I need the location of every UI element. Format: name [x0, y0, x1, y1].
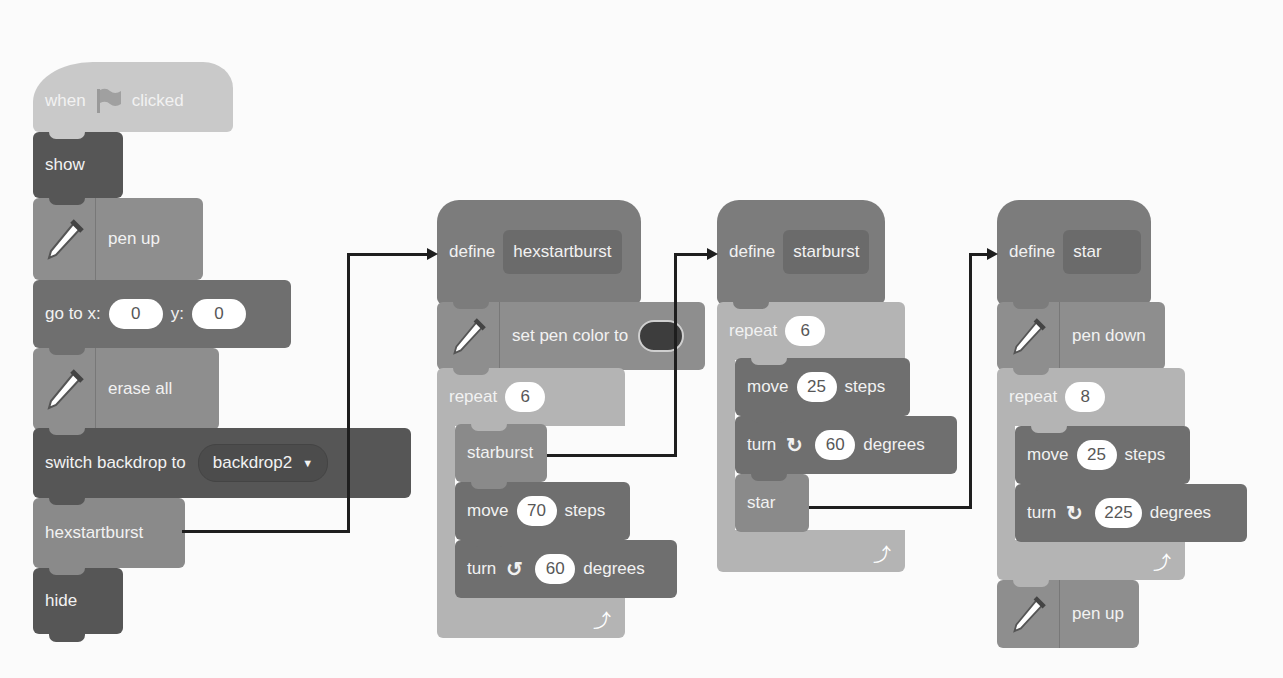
block-notch — [751, 473, 787, 481]
hide-label: hide — [45, 591, 77, 611]
define-starburst-block[interactable]: define starburst — [717, 200, 885, 304]
block-notch — [49, 497, 85, 505]
rotate-left-icon: ↺ — [506, 557, 523, 581]
when-flag-clicked-block[interactable]: when clicked — [33, 62, 233, 132]
switch-backdrop-block[interactable]: switch backdrop to backdrop2 ▼ — [33, 428, 411, 498]
pen-color-swatch[interactable] — [638, 320, 684, 352]
rotate-right-icon: ↻ — [786, 433, 803, 457]
turn-label: turn — [747, 435, 776, 455]
turn-left-block[interactable]: turn ↺ 60 degrees — [455, 540, 677, 598]
define-label: define — [449, 242, 495, 262]
repeat-arm — [997, 424, 1015, 544]
backdrop-value: backdrop2 — [213, 453, 292, 473]
clicked-label: clicked — [132, 91, 184, 111]
repeat-arm — [717, 358, 735, 534]
block-notch — [471, 539, 507, 547]
chevron-down-icon: ▼ — [302, 457, 313, 469]
repeat-block[interactable]: repeat 8 — [997, 368, 1185, 426]
block-notch — [1013, 367, 1049, 375]
hide-block[interactable]: hide — [33, 568, 123, 634]
repeat-arm — [437, 424, 455, 594]
erase-all-label: erase all — [108, 379, 172, 399]
pen-icon — [997, 302, 1060, 370]
turn-right-block[interactable]: turn ↻ 60 degrees — [735, 416, 957, 474]
star-name: star — [1073, 242, 1101, 262]
pen-icon — [33, 198, 96, 280]
move-steps-block[interactable]: move 25 steps — [735, 358, 910, 416]
block-notch — [1031, 425, 1067, 433]
pen-up-label: pen up — [108, 229, 160, 249]
block-notch — [751, 357, 787, 365]
pen-up-block[interactable]: pen up — [33, 198, 203, 280]
pen-icon — [33, 348, 96, 430]
turn-right-block[interactable]: turn ↻ 225 degrees — [1015, 484, 1247, 542]
define-hexstartburst-block[interactable]: define hexstartburst — [437, 200, 641, 304]
rotate-right-icon: ↻ — [1066, 501, 1083, 525]
star-prototype[interactable]: star — [1063, 230, 1141, 274]
repeat-footer: ⤴ — [997, 540, 1185, 580]
steps-label: steps — [845, 377, 886, 397]
define-label: define — [1009, 242, 1055, 262]
y-label: y: — [171, 304, 184, 324]
block-notch — [49, 347, 85, 355]
block-notch — [49, 567, 85, 575]
move-label: move — [1027, 445, 1069, 465]
repeat-block[interactable]: repeat 6 — [437, 368, 625, 426]
repeat-count-input[interactable]: 8 — [1065, 382, 1105, 412]
move-steps-input[interactable]: 25 — [797, 372, 837, 402]
block-notch — [751, 415, 787, 423]
starburst-name: starburst — [793, 242, 859, 262]
block-notch — [453, 367, 489, 375]
steps-label: steps — [1125, 445, 1166, 465]
set-pen-color-block[interactable]: set pen color to — [437, 302, 705, 370]
steps-label: steps — [565, 501, 606, 521]
repeat-count-input[interactable]: 6 — [785, 316, 825, 346]
degrees-label: degrees — [1150, 503, 1211, 523]
repeat-block[interactable]: repeat 6 — [717, 302, 905, 360]
pen-up-block[interactable]: pen up — [997, 580, 1139, 648]
repeat-label: repeat — [729, 321, 777, 341]
repeat-count-input[interactable]: 6 — [505, 382, 545, 412]
define-star-block[interactable]: define star — [997, 200, 1151, 304]
star-call-block[interactable]: star — [735, 474, 809, 532]
green-flag-icon — [94, 87, 124, 115]
go-to-x-label: go to x: — [45, 304, 101, 324]
pen-down-label: pen down — [1072, 326, 1146, 346]
move-label: move — [467, 501, 509, 521]
degrees-label: degrees — [863, 435, 924, 455]
starburst-call-block[interactable]: starburst — [455, 424, 547, 482]
arrow-head-icon — [987, 248, 998, 260]
block-notch — [733, 301, 769, 309]
turn-label: turn — [1027, 503, 1056, 523]
pen-up-label: pen up — [1072, 604, 1124, 624]
show-block[interactable]: show — [33, 132, 123, 198]
x-input[interactable]: 0 — [109, 299, 163, 329]
repeat-footer: ⤴ — [717, 530, 905, 572]
move-steps-input[interactable]: 25 — [1077, 440, 1117, 470]
star-call-label: star — [747, 493, 775, 513]
move-steps-input[interactable]: 70 — [517, 496, 557, 526]
starburst-prototype[interactable]: starburst — [783, 230, 869, 274]
block-tab — [49, 633, 85, 642]
block-notch — [1031, 483, 1067, 491]
move-steps-block[interactable]: move 25 steps — [1015, 426, 1190, 484]
turn-degrees-input[interactable]: 60 — [535, 554, 575, 584]
block-notch — [49, 197, 85, 205]
loop-arrow-icon: ⤴ — [873, 540, 891, 566]
pen-down-block[interactable]: pen down — [997, 302, 1165, 370]
pen-icon — [997, 580, 1060, 648]
block-notch — [471, 423, 507, 431]
hexstartburst-call-block[interactable]: hexstartburst — [33, 498, 185, 568]
backdrop-dropdown[interactable]: backdrop2 ▼ — [198, 444, 328, 482]
y-input[interactable]: 0 — [192, 299, 246, 329]
hexstartburst-prototype[interactable]: hexstartburst — [503, 230, 621, 274]
turn-degrees-input[interactable]: 225 — [1095, 498, 1141, 528]
move-steps-block[interactable]: move 70 steps — [455, 482, 630, 540]
go-to-xy-block[interactable]: go to x: 0 y: 0 — [33, 280, 291, 348]
arrow-head-icon — [427, 248, 438, 260]
block-notch — [49, 131, 85, 139]
loop-arrow-icon: ⤴ — [1153, 548, 1171, 574]
erase-all-block[interactable]: erase all — [33, 348, 219, 430]
turn-degrees-input[interactable]: 60 — [815, 430, 855, 460]
degrees-label: degrees — [583, 559, 644, 579]
